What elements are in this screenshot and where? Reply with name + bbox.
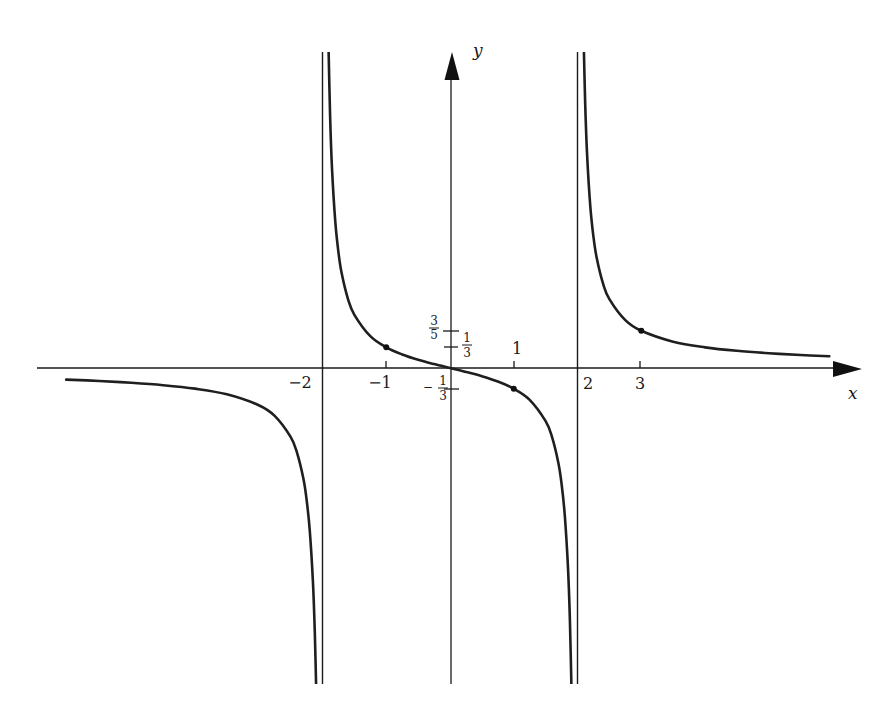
fraction-numerator: 1 xyxy=(439,374,447,388)
y-tick-label-3-5: 3 5 xyxy=(429,314,439,342)
curve-branch-1 xyxy=(66,380,316,696)
x-axis-label: x xyxy=(848,383,858,403)
curve-branch-3 xyxy=(584,41,830,356)
marked-point xyxy=(383,344,389,350)
fraction-sign: − xyxy=(423,380,433,394)
fraction-numerator: 1 xyxy=(463,331,471,345)
fraction-denominator: 3 xyxy=(463,346,471,360)
y-tick-label-neg-1-3: − 1 3 xyxy=(423,374,448,403)
marked-point xyxy=(638,328,644,334)
y-tick-label-1-3: 1 3 xyxy=(462,331,472,360)
y-axis: y xyxy=(445,40,484,684)
x-axis-arrow-icon xyxy=(833,361,862,377)
y-axis-arrow-icon xyxy=(445,52,460,80)
y-ticks: 3 5 1 3 − 1 3 xyxy=(423,314,472,403)
marked-point xyxy=(511,386,517,392)
fraction-denominator: 3 xyxy=(439,389,447,403)
fraction-denominator: 5 xyxy=(430,328,438,342)
fraction-numerator: 3 xyxy=(430,314,438,328)
x-tick-label-3: 3 xyxy=(635,374,645,393)
x-tick-label-1: 1 xyxy=(512,339,522,358)
function-graph: x y −2 −1 1 2 3 3 5 1 3 xyxy=(0,0,891,715)
x-tick-label-2: 2 xyxy=(583,374,593,393)
x-tick-label-neg2: −2 xyxy=(288,373,312,392)
y-axis-label: y xyxy=(472,40,483,60)
x-tick-label-neg1: −1 xyxy=(368,373,392,392)
